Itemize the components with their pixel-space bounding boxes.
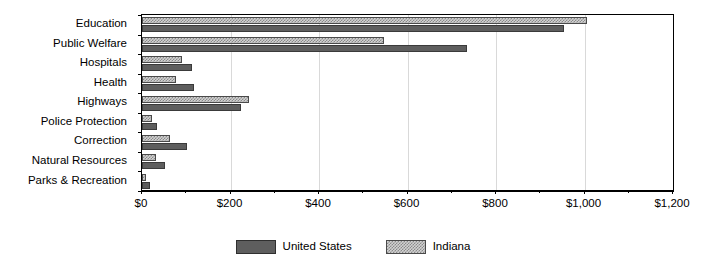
- x-axis-tick-label: $400: [305, 198, 331, 210]
- category-tick: [138, 93, 142, 94]
- bar-group: [142, 132, 673, 152]
- x-axis-major-tick: [230, 190, 231, 194]
- x-axis-minor-tick: [274, 190, 275, 193]
- category-tick: [138, 15, 142, 16]
- category-tick: [138, 171, 142, 172]
- bar-group: [142, 152, 673, 172]
- bar-group: [142, 74, 673, 94]
- x-axis-tick-label: $0: [135, 198, 148, 210]
- legend-item-indiana: Indiana: [386, 240, 471, 254]
- x-axis-major-tick: [407, 190, 408, 194]
- bar-indiana: [142, 37, 384, 44]
- x-axis-major-tick: [318, 190, 319, 194]
- category-tick: [138, 113, 142, 114]
- category-tick: [138, 54, 142, 55]
- legend-label-united-states: United States: [283, 241, 352, 253]
- x-axis-tick-label: $1,200: [654, 198, 689, 210]
- bar-groups: [142, 15, 673, 191]
- category-tick: [138, 132, 142, 133]
- bar-indiana: [142, 174, 146, 181]
- bar-indiana: [142, 17, 587, 24]
- x-axis-tick-label: $600: [394, 198, 420, 210]
- legend-label-indiana: Indiana: [433, 241, 471, 253]
- bar-group: [142, 54, 673, 74]
- plot-inner: [142, 15, 673, 191]
- category-tick: [138, 74, 142, 75]
- category-label: Correction: [0, 131, 133, 151]
- x-axis-minor-tick: [362, 190, 363, 193]
- bar-united-states: [142, 25, 564, 32]
- bar-group: [142, 172, 673, 192]
- category-label: Police Protection: [0, 112, 133, 132]
- chart-legend: United States Indiana: [0, 240, 706, 254]
- legend-swatch-united-states: [236, 240, 276, 254]
- bar-united-states: [142, 84, 194, 91]
- bar-group: [142, 15, 673, 35]
- legend-swatch-indiana: [386, 240, 426, 254]
- x-axis-major-tick: [672, 190, 673, 194]
- category-tick: [138, 152, 142, 153]
- bar-united-states: [142, 162, 165, 169]
- x-axis-tick-label: $800: [482, 198, 508, 210]
- x-axis-minor-tick: [451, 190, 452, 193]
- bar-indiana: [142, 96, 249, 103]
- bar-group: [142, 35, 673, 55]
- category-label: Education: [0, 14, 133, 34]
- category-label: Parks & Recreation: [0, 171, 133, 191]
- bar-united-states: [142, 64, 192, 71]
- category-label: Health: [0, 73, 133, 93]
- x-axis-minor-tick: [185, 190, 186, 193]
- category-axis-labels: Education Public Welfare Hospitals Healt…: [0, 14, 133, 190]
- category-label: Hospitals: [0, 53, 133, 73]
- x-axis-tick-label: $1,000: [566, 198, 601, 210]
- x-axis-major-tick: [141, 190, 142, 194]
- bar-united-states: [142, 123, 157, 130]
- x-axis-minor-tick: [628, 190, 629, 193]
- x-axis-tick-label: $200: [217, 198, 243, 210]
- bar-united-states: [142, 45, 467, 52]
- category-label: Highways: [0, 92, 133, 112]
- bar-indiana: [142, 76, 176, 83]
- bar-chart: Education Public Welfare Hospitals Healt…: [0, 0, 706, 272]
- category-label: Public Welfare: [0, 34, 133, 54]
- bar-united-states: [142, 104, 241, 111]
- plot-area: [141, 14, 674, 192]
- category-tick: [138, 35, 142, 36]
- bar-group: [142, 113, 673, 133]
- bar-united-states: [142, 182, 150, 189]
- legend-item-united-states: United States: [236, 240, 352, 254]
- bar-united-states: [142, 143, 187, 150]
- bar-indiana: [142, 135, 170, 142]
- bar-indiana: [142, 154, 156, 161]
- bar-indiana: [142, 115, 152, 122]
- bar-indiana: [142, 56, 182, 63]
- x-axis-major-tick: [584, 190, 585, 194]
- x-axis-major-tick: [495, 190, 496, 194]
- x-axis-minor-tick: [539, 190, 540, 193]
- category-label: Natural Resources: [0, 151, 133, 171]
- bar-group: [142, 93, 673, 113]
